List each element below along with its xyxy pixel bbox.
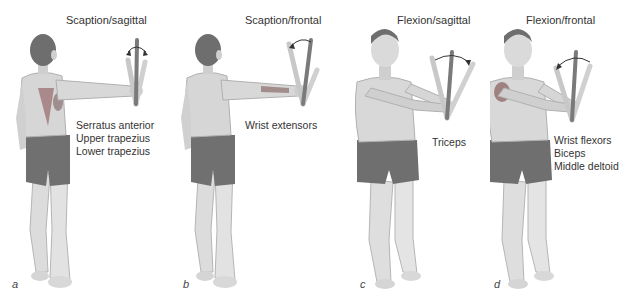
figure-illustration-front-view [355,0,490,298]
panel-c: Flexion/sagittal Triceps c [355,0,490,298]
panel-title: Flexion/sagittal [397,14,470,26]
muscle-label: Upper trapezius [76,132,150,145]
muscle-label: Middle deltoid [554,160,619,173]
panel-a: Scaption/sagittal Serratus anterior Uppe… [0,0,160,298]
muscle-label: Wrist extensors [245,119,317,132]
panel-letter: d [494,278,500,290]
panel-title: Scaption/sagittal [66,14,147,26]
panel-title: Scaption/frontal [245,14,321,26]
muscle-label: Triceps [432,136,466,149]
muscle-label: Lower trapezius [76,145,150,158]
panel-letter: b [183,278,189,290]
muscle-label: Biceps [554,147,586,160]
panel-letter: c [360,278,366,290]
panel-b: Scaption/frontal Wrist extensors b [165,0,325,298]
panel-d: Flexion/frontal Wrist flexors Biceps Mid… [490,0,631,298]
panel-title: Flexion/frontal [526,14,595,26]
muscle-label: Wrist flexors [554,134,612,147]
panel-letter: a [12,278,18,290]
figure-illustration-back-view [165,0,325,298]
muscle-label: Serratus anterior [76,119,154,132]
